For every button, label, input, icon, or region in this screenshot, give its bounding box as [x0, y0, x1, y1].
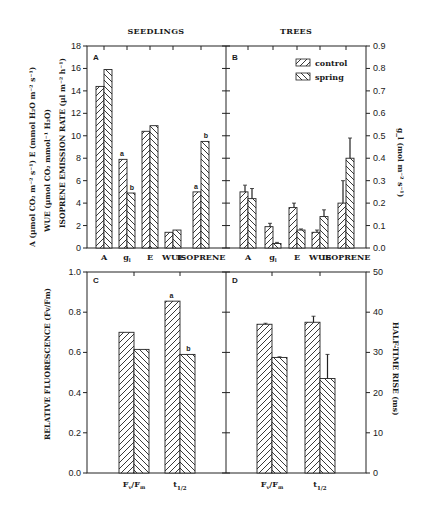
bar-a-control [119, 159, 127, 248]
y-tick-label: 0.6 [373, 108, 386, 118]
x-category-label: E [294, 252, 300, 262]
panel-letter-b: B [232, 53, 238, 62]
bar-b-control [338, 203, 346, 248]
significance-letter: a [120, 150, 124, 157]
x-category-label: t1/2 [173, 479, 187, 491]
y-tick-label: 16 [71, 63, 81, 73]
bar-a-spring [127, 193, 135, 248]
bar-a-spring [173, 230, 181, 248]
y-tick-label: 20 [373, 388, 383, 398]
y-tick-label: 0.0 [373, 243, 386, 253]
bar-a-control [96, 86, 104, 248]
significance-letter: b [130, 184, 134, 191]
y-tick-label: 10 [373, 428, 383, 438]
y-axis-title-a-line1: A (µmol CO₂ m⁻² s⁻¹) E (mmol H₂O m⁻² s⁻¹… [28, 67, 37, 248]
y-tick-label: 0.8 [68, 307, 81, 317]
x-category-label: A [244, 252, 252, 262]
y-tick-label: 0.1 [373, 221, 386, 231]
x-category-label: E [147, 252, 153, 262]
x-category-label: gl [269, 252, 277, 263]
y-tick-label: 0.4 [373, 153, 386, 163]
y-tick-label: 14 [71, 86, 81, 96]
y-axis-title-b: g_l (mol m⁻² s⁻¹) [396, 128, 405, 197]
y-tick-label: 6 [76, 176, 81, 186]
significance-letter: b [186, 345, 190, 352]
column-titles: SEEDLINGS TREES [128, 26, 312, 36]
bar-c-control [165, 301, 180, 473]
y-tick-label: 50 [373, 267, 383, 277]
y-tick-label: 2 [76, 221, 81, 231]
y-tick-label: 0.6 [68, 347, 81, 357]
y-tick-label: 10 [71, 131, 81, 141]
x-category-label: gl [123, 252, 131, 263]
bar-a-spring [104, 70, 112, 248]
bar-d-spring [320, 379, 335, 473]
y-tick-label: 0.8 [373, 63, 386, 73]
significance-letter: b [204, 132, 208, 139]
bar-a-control [193, 192, 201, 248]
x-category-label: t1/2 [313, 479, 327, 491]
bar-b-spring [346, 158, 354, 248]
panel-letter-a: A [93, 53, 99, 62]
bars [96, 70, 354, 473]
bar-b-control [289, 208, 297, 248]
axis-titles: A (µmol CO₂ m⁻² s⁻¹) E (mmol H₂O m⁻² s⁻¹… [28, 58, 405, 440]
bar-a-control [165, 232, 173, 248]
bar-c-spring [134, 349, 149, 473]
y-tick-label: 4 [76, 198, 81, 208]
column-title-seedlings: SEEDLINGS [128, 26, 185, 36]
labels: 024681012141618AglEWUEISOPRENEabab0.00.1… [68, 41, 385, 491]
bar-c-spring [180, 354, 195, 473]
bar-d-spring [272, 357, 287, 473]
y-axis-title-c: RELATIVE FLUORESCENCE (Fv/Fm) [43, 288, 52, 440]
y-tick-label: 12 [71, 108, 81, 118]
y-tick-label: 0.0 [68, 468, 81, 478]
y-tick-label: 8 [76, 153, 81, 163]
y-axis-title-d: HALF-TIME RISE (ms) [391, 322, 400, 416]
y-tick-label: 0.7 [373, 86, 386, 96]
bar-b-spring [248, 199, 256, 248]
bar-b-spring [320, 217, 328, 248]
bar-a-spring [201, 141, 209, 248]
bar-b-control [265, 227, 273, 248]
significance-letter: a [170, 292, 174, 299]
y-tick-label: 0 [76, 243, 81, 253]
bar-b-control [240, 192, 248, 248]
y-tick-label: 0.4 [68, 388, 81, 398]
bar-d-control [257, 324, 272, 473]
y-tick-label: 0.2 [373, 198, 386, 208]
bar-c-control [119, 332, 134, 473]
legend-label-control: control [315, 58, 347, 68]
significance-letter: a [194, 183, 198, 190]
legend: control spring [296, 58, 347, 82]
panel-letter-d: D [232, 276, 238, 285]
y-axis-title-a-line3: ISOPRENE EMISSION RATE (µl m⁻² h⁻¹) [58, 58, 67, 228]
column-title-trees: TREES [280, 26, 312, 36]
y-tick-label: 30 [373, 347, 383, 357]
x-category-label: ISOPRENE [322, 252, 371, 262]
x-category-label: Fv/Fm [261, 479, 284, 490]
bar-b-spring [273, 244, 281, 248]
bar-b-spring [297, 230, 305, 248]
y-tick-label: 1.0 [68, 267, 81, 277]
y-tick-label: 0 [373, 468, 378, 478]
x-category-label: Fv/Fm [123, 479, 146, 490]
y-tick-label: 0.3 [373, 176, 386, 186]
legend-swatch-control [296, 59, 310, 66]
y-tick-label: 0.2 [68, 428, 81, 438]
bar-a-control [142, 131, 150, 248]
x-category-label: A [100, 252, 108, 262]
bar-d-control [305, 322, 320, 473]
x-category-label: ISOPRENE [177, 252, 226, 262]
panel-letter-c: C [93, 276, 99, 285]
figure: SEEDLINGS TREES 024681012141618AglEWUEIS… [0, 0, 426, 511]
y-tick-label: 18 [71, 41, 81, 51]
bar-b-control [312, 232, 320, 248]
y-axis-title-a-line2: WUE (µmol CO₂ mmol⁻¹ H₂O) [43, 109, 52, 233]
y-tick-label: 40 [373, 307, 383, 317]
bar-a-spring [150, 126, 158, 248]
legend-label-spring: spring [315, 72, 344, 82]
y-tick-label: 0.5 [373, 131, 386, 141]
y-tick-label: 0.9 [373, 41, 386, 51]
legend-swatch-spring [296, 73, 310, 80]
